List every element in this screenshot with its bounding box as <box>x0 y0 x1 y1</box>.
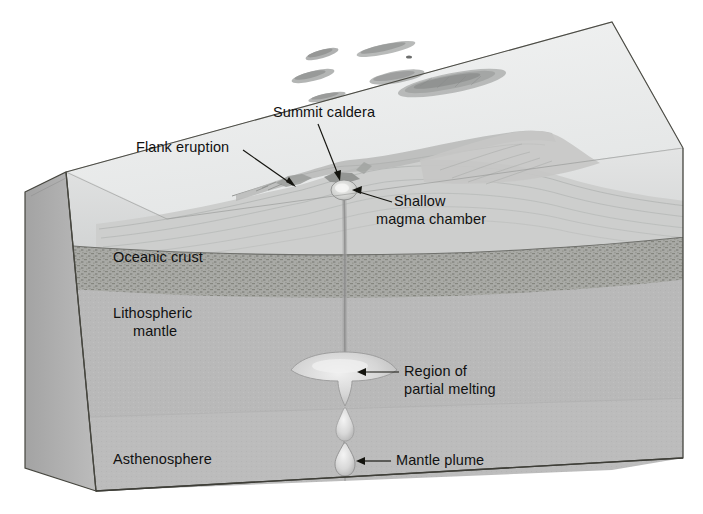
label-oceanic-crust: Oceanic crust <box>113 249 203 265</box>
label-mantle-plume: Mantle plume <box>396 452 484 468</box>
label-lithospheric-mantle-line2: mantle <box>133 323 177 339</box>
label-shallow-magma-chamber-line2: magma chamber <box>376 211 486 227</box>
label-region-of-partial-melting-line1: Region of <box>404 363 468 379</box>
magma-conduit <box>344 196 345 358</box>
label-lithospheric-mantle-line1: Lithospheric <box>113 305 192 321</box>
figure-root: Flank eruption Summit caldera Shallow ma… <box>0 0 703 514</box>
label-shallow-magma-chamber-line1: Shallow <box>394 193 446 209</box>
label-summit-caldera: Summit caldera <box>273 104 376 120</box>
label-flank-eruption: Flank eruption <box>136 139 229 155</box>
block-diagram: Flank eruption Summit caldera Shallow ma… <box>0 0 703 514</box>
label-region-of-partial-melting-line2: partial melting <box>404 381 496 397</box>
label-asthenosphere: Asthenosphere <box>113 451 212 467</box>
